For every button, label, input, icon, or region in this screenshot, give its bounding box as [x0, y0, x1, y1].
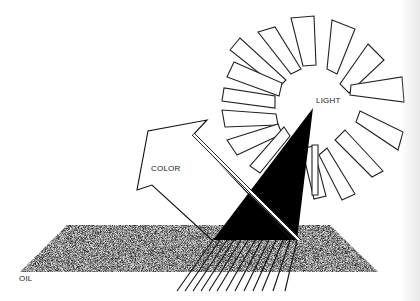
light-beam: [213, 108, 313, 240]
oil-slab: [0, 220, 420, 280]
color-label: COLOR: [151, 164, 180, 173]
page-edge-shade: [400, 0, 420, 301]
oil-label: OIL: [19, 274, 33, 283]
light-label: LIGHT: [316, 96, 341, 105]
diagram-canvas: LIGHT COLOR OIL: [0, 0, 420, 301]
